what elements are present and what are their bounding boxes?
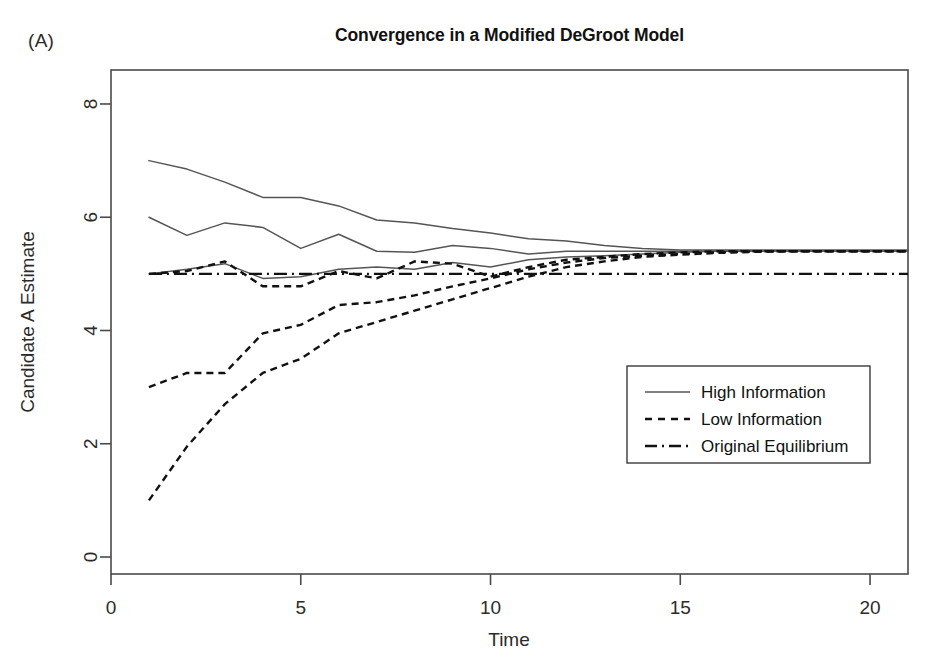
y-tick-label: 4 [81,325,102,336]
y-axis-ticks: 02468 [81,99,112,563]
legend-label: High Information [701,383,826,402]
x-tick-label: 15 [670,597,691,618]
x-tick-label: 10 [480,597,501,618]
x-tick-label: 20 [859,597,880,618]
y-tick-label: 0 [81,552,102,563]
figure-panel-a: (A) Convergence in a Modified DeGroot Mo… [0,0,945,670]
chart-legend[interactable]: High InformationLow InformationOriginal … [627,366,870,463]
series-line-solid [149,217,908,254]
legend-label: Original Equilibrium [701,437,848,456]
legend-label: Low Information [701,410,822,429]
y-axis-title: Candidate A Estimate [17,231,38,413]
x-tick-label: 5 [295,597,306,618]
x-axis-ticks: 05101520 [106,574,881,618]
plot-frame [111,70,908,574]
y-tick-label: 2 [81,438,102,449]
line-chart-plot: 02468 05101520 Time Candidate A Estimate… [0,0,945,670]
y-tick-label: 8 [81,99,102,110]
y-tick-label: 6 [81,212,102,223]
series-line-solid [149,161,908,250]
x-tick-label: 0 [106,597,117,618]
x-axis-title: Time [488,629,530,650]
